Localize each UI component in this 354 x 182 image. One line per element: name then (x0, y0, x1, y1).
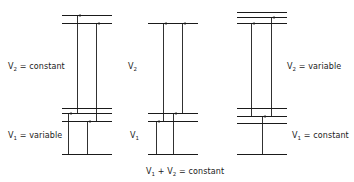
panel-2 (148, 24, 198, 155)
panel-1-upper-label: V2 = constant (8, 62, 65, 72)
panel-2-sum-label: V1 + V2 = constant (146, 167, 224, 177)
panel-1 (62, 16, 112, 155)
panel-3 (237, 13, 287, 155)
panel-3-lower-label: V1 = constant (292, 131, 349, 141)
panel-3-upper-label: V2 = variable (287, 62, 341, 72)
panel-2-lower-label: V1 (130, 131, 139, 141)
panel-1-lower-label: V1 = variable (8, 131, 62, 141)
energy-level-diagram (0, 0, 354, 182)
panel-2-upper-label: V2 (128, 62, 137, 72)
